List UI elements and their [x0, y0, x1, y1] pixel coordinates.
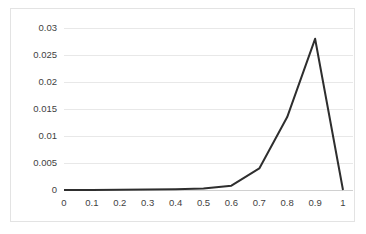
line-chart: 00.0050.010.0150.020.0250.03 00.10.20.30…	[11, 9, 356, 223]
plot-area: 00.0050.010.0150.020.0250.03 00.10.20.30…	[11, 9, 356, 223]
x-tick-label: 0.9	[308, 197, 321, 208]
y-tick-label: 0	[52, 184, 57, 195]
x-tick-label: 0	[61, 197, 66, 208]
x-tick-label: 0.7	[253, 197, 266, 208]
x-tick-label: 0.5	[197, 197, 210, 208]
y-tick-label: 0.005	[33, 157, 57, 168]
y-tick-label: 0.03	[39, 22, 58, 33]
y-tick-label: 0.01	[39, 130, 58, 141]
y-tick-label: 0.025	[33, 49, 57, 60]
x-tick-label: 0.3	[141, 197, 154, 208]
x-axis-tick-labels: 00.10.20.30.40.50.60.70.80.91	[61, 197, 345, 208]
data-series-line	[64, 39, 343, 190]
chart-container: 00.0050.010.0150.020.0250.03 00.10.20.30…	[10, 8, 355, 222]
x-tick-label: 0.6	[225, 197, 238, 208]
x-tick-label: 0.2	[113, 197, 126, 208]
x-tick-label: 0.8	[281, 197, 294, 208]
y-tick-label: 0.015	[33, 103, 57, 114]
y-tick-label: 0.02	[39, 76, 58, 87]
x-tick-label: 0.1	[85, 197, 98, 208]
y-axis-tick-labels: 00.0050.010.0150.020.0250.03	[33, 22, 57, 195]
x-tick-label: 1	[340, 197, 345, 208]
x-tick-label: 0.4	[169, 197, 182, 208]
